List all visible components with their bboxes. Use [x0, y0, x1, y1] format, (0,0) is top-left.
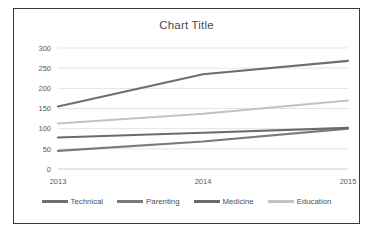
y-axis-tick-label: 250	[38, 64, 51, 73]
legend-label: Medicine	[223, 197, 254, 206]
legend-label: Technical	[71, 197, 104, 206]
chart-legend: TechnicalParentingMedicineEducation	[14, 197, 359, 206]
y-axis-tick-label: 200	[38, 84, 51, 93]
y-axis-tick-label: 300	[38, 44, 51, 53]
legend-item-parenting[interactable]: Parenting	[117, 197, 179, 206]
legend-item-technical[interactable]: Technical	[42, 197, 104, 206]
legend-swatch-medicine	[194, 200, 220, 202]
series-line-education	[58, 100, 348, 123]
series-lines-group	[58, 61, 348, 151]
legend-label: Education	[297, 197, 332, 206]
legend-swatch-education	[268, 200, 294, 202]
y-axis-tick-label: 50	[43, 145, 51, 154]
y-axis-tick-label: 0	[47, 165, 51, 174]
y-axis-tick-label: 100	[38, 124, 51, 133]
series-line-technical	[58, 61, 348, 107]
legend-swatch-parenting	[117, 200, 143, 202]
chart-container: Chart Title 050100150200250300 201320142…	[13, 8, 360, 224]
plot-area: 050100150200250300 201320142015	[14, 9, 361, 225]
x-axis-tick-labels: 201320142015	[50, 177, 357, 186]
y-axis-tick-labels: 050100150200250300	[38, 44, 51, 174]
legend-swatch-technical	[42, 200, 68, 202]
gridlines-group	[58, 48, 348, 169]
y-axis-tick-label: 150	[38, 104, 51, 113]
legend-item-education[interactable]: Education	[268, 197, 332, 206]
legend-label: Parenting	[146, 197, 179, 206]
x-axis-tick-label: 2014	[195, 177, 212, 186]
x-axis-tick-label: 2015	[340, 177, 357, 186]
x-axis-tick-label: 2013	[50, 177, 67, 186]
legend-item-medicine[interactable]: Medicine	[194, 197, 254, 206]
